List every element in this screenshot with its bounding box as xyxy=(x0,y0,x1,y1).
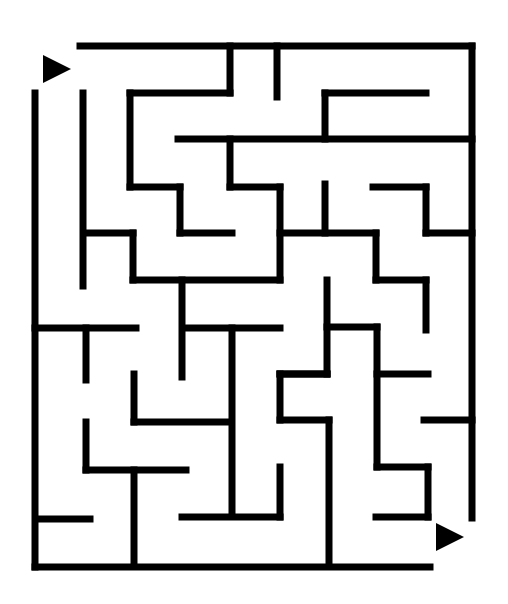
maze-canvas xyxy=(0,0,508,604)
maze-background xyxy=(0,0,508,604)
